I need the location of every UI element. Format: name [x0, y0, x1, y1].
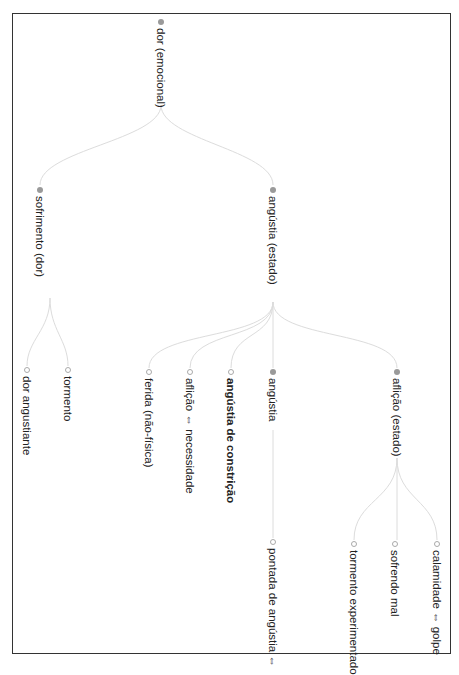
filled-node-dot-icon	[37, 187, 43, 193]
edge-root-angustia-estado	[161, 105, 273, 185]
edge-af-tormento-exp	[354, 458, 397, 540]
node-label: angústia	[267, 378, 279, 421]
hollow-node-dot-icon	[146, 369, 152, 375]
hollow-node-dot-icon	[270, 539, 276, 545]
filled-node-dot-icon	[270, 187, 276, 193]
hollow-node-dot-icon	[434, 541, 440, 547]
filled-node-dot-icon	[270, 369, 276, 375]
node-label: angústia (estado)	[267, 196, 279, 285]
edge-ae-constricao	[231, 302, 273, 368]
filled-node-dot-icon	[158, 19, 164, 25]
edge-sofrimento-dor-angustiante	[27, 298, 50, 366]
node-label: sofrimento (dor)	[34, 196, 46, 277]
edge-ae-ferida	[149, 302, 273, 368]
hollow-node-dot-icon	[228, 369, 234, 375]
hollow-node-dot-icon	[392, 541, 398, 547]
node-label: dor angustiante	[21, 376, 33, 455]
node-label: aflição ⇔ necessidade	[184, 378, 196, 494]
edge-sofrimento-tormento	[50, 298, 68, 366]
hollow-node-dot-icon	[65, 367, 71, 373]
node-label: sofrendo mal	[389, 550, 401, 616]
edge-ae-aflicao-necessidade	[190, 302, 273, 368]
node-label: tormento experimentado	[348, 550, 360, 675]
hollow-node-dot-icon	[24, 367, 30, 373]
node-label: pontada de angústia ⇔	[267, 548, 279, 667]
hollow-node-dot-icon	[351, 541, 357, 547]
node-label: aflição (estado)	[391, 378, 403, 457]
hollow-node-dot-icon	[187, 369, 193, 375]
filled-node-dot-icon	[394, 369, 400, 375]
edge-root-sofrimento	[40, 105, 161, 185]
node-label: calamidade ⇔ golpe	[431, 550, 443, 655]
node-label: tormento	[62, 376, 74, 421]
node-label: angústia de constrição	[225, 378, 237, 503]
node-label: ferida (não-física)	[143, 378, 155, 467]
edge-af-calamidade	[397, 458, 437, 540]
node-label: dor (emocional)	[155, 28, 167, 108]
edge-ae-aflicao-estado	[273, 302, 397, 368]
